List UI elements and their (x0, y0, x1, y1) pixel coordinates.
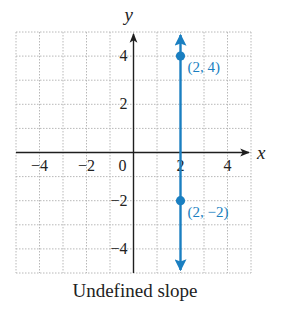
coordinate-plane: −4−202442−2−4 (2, 4)(2, −2) x y Undefine… (0, 0, 284, 313)
y-tick-label: 2 (120, 95, 128, 112)
data-point-label: (2, 4) (188, 59, 221, 76)
chart-caption: Undefined slope (0, 280, 270, 302)
y-tick-label: −4 (110, 240, 127, 257)
x-tick-label: 0 (119, 157, 127, 174)
plot-area: −4−202442−2−4 (2, 4)(2, −2) x y (0, 0, 284, 313)
data-point (176, 196, 185, 205)
y-axis-label: y (123, 4, 134, 25)
data-point (176, 52, 185, 61)
x-tick-label: 4 (224, 157, 232, 174)
data-point-label: (2, −2) (188, 204, 229, 221)
y-tick-label: −2 (110, 192, 127, 209)
x-tick-label: −2 (78, 157, 95, 174)
y-tick-label: 4 (120, 47, 128, 64)
x-tick-label: −4 (31, 157, 48, 174)
x-axis-label: x (256, 142, 266, 163)
